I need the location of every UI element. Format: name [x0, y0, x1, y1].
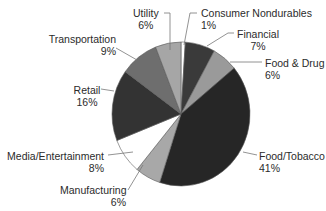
slice-name: Consumer Nondurables — [201, 7, 312, 19]
leader-line-consumer-nondurables — [184, 13, 197, 45]
slice-name: Transportation — [48, 33, 116, 45]
slice-percent: 7% — [237, 40, 279, 52]
label-media-entertainment: Media/Entertainment 8% — [6, 150, 104, 174]
slice-percent: 6% — [60, 196, 126, 208]
label-utility: Utility 6% — [133, 7, 159, 31]
leader-line-food-tobacco — [243, 152, 257, 155]
slice-name: Food & Drug — [265, 57, 325, 69]
label-manufacturing: Manufacturing 6% — [60, 184, 126, 208]
leader-line-manufacturing — [128, 165, 143, 190]
leader-line-financial — [207, 33, 234, 46]
slice-percent: 41% — [259, 162, 325, 174]
slice-percent: 16% — [72, 96, 102, 108]
label-food-drug: Food & Drug 6% — [265, 57, 325, 81]
slice-percent: 9% — [48, 45, 116, 57]
slice-name: Media/Entertainment — [6, 150, 104, 162]
leader-line-retail — [101, 89, 114, 91]
slice-name: Utility — [133, 7, 159, 19]
leader-line-transportation — [116, 48, 137, 60]
slice-percent: 6% — [133, 19, 159, 31]
label-retail: Retail 16% — [72, 84, 102, 108]
slice-name: Manufacturing — [60, 184, 126, 196]
label-financial: Financial 7% — [237, 28, 279, 52]
label-transportation: Transportation 9% — [48, 33, 116, 57]
slice-percent: 8% — [6, 162, 104, 174]
pie-slices — [112, 42, 250, 186]
slice-name: Retail — [72, 84, 102, 96]
label-food-tobacco: Food/Tobacco 41% — [259, 150, 325, 174]
slice-name: Financial — [237, 28, 279, 40]
slice-percent: 6% — [265, 69, 325, 81]
slice-name: Food/Tobacco — [259, 150, 325, 162]
